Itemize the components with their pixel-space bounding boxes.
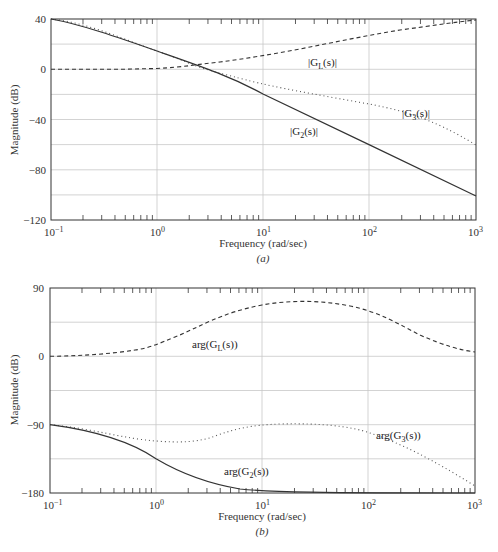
curve-gl-phase [50, 301, 475, 356]
panel-a-xtick-1000: 103 [468, 225, 483, 238]
label-g3-phase: arg(G3(s)) [376, 429, 421, 444]
label-gl-phase: arg(GL(s)) [192, 338, 238, 353]
panel-b-xtick-1: 100 [149, 498, 164, 511]
panel-a: 40 0 −40 −80 −120 10−1 100 101 102 103 F… [8, 13, 483, 265]
panel-a-caption: (a) [257, 252, 270, 265]
bode-plot-figure: 40 0 −40 −80 −120 10−1 100 101 102 103 F… [0, 0, 498, 552]
panel-a-xlabel: Frequency (rad/sec) [219, 237, 307, 250]
panel-b-xtick-100: 102 [361, 498, 376, 511]
panel-a-xtick-1: 100 [150, 225, 165, 238]
panel-b-xtick-0.1: 10−1 [43, 498, 63, 511]
curve-g3-magnitude [51, 19, 476, 145]
panel-a-ytick-40: 40 [35, 13, 47, 25]
panel-b-xlabel: Frequency (rad/sec) [218, 510, 306, 523]
panel-a-ytick-neg40: −40 [29, 114, 47, 126]
panel-b-ytick-0: 0 [39, 350, 45, 362]
curve-gl-magnitude [51, 20, 476, 69]
panel-a-xtick-100: 102 [362, 225, 377, 238]
panel-b-ytick-90: 90 [33, 282, 45, 294]
panel-a-ylabel: Magnitude (dB) [8, 84, 21, 155]
panel-a-ytick-neg120: −120 [23, 214, 46, 226]
panel-b-grid [50, 288, 475, 493]
panel-a-ytick-neg80: −80 [29, 164, 47, 176]
panel-a-xtick-0.1: 10−1 [44, 225, 64, 238]
panel-b-xtick-1000: 103 [467, 498, 482, 511]
panel-a-ytick-0: 0 [41, 63, 47, 75]
panel-b-ytick-neg90: −90 [27, 419, 45, 431]
panel-b: 90 0 −90 −180 10−1 100 101 102 103 Frequ… [8, 282, 482, 538]
label-gl-magnitude: |GL(s)| [308, 56, 337, 71]
panel-b-ylabel: Magnitude (dB) [8, 354, 21, 425]
label-g2-magnitude: |G2(s)| [290, 125, 318, 140]
panel-b-caption: (b) [256, 525, 269, 538]
panel-b-ytick-neg180: −180 [21, 487, 44, 499]
